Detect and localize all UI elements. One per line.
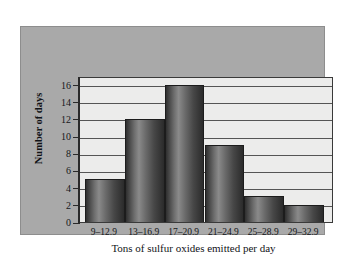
y-tick-mark [73, 223, 79, 224]
bar [85, 179, 125, 222]
y-tick-label: 12 [47, 115, 71, 125]
x-tick-labels: 9–12.913–16.917–20.921–24.925–28.929–32.… [79, 226, 333, 240]
y-tick-mark [73, 188, 79, 189]
y-axis-title: Number of days [33, 74, 44, 184]
bar [165, 85, 205, 222]
bar [244, 196, 284, 222]
bar-series [80, 78, 332, 222]
y-tick-mark [73, 137, 79, 138]
y-tick-labels: 0246810121416 [45, 27, 71, 258]
y-tick-label: 2 [47, 201, 71, 211]
bar [125, 119, 165, 222]
y-tick-mark [73, 85, 79, 86]
y-tick-mark [73, 205, 79, 206]
y-tick-label: 0 [47, 218, 71, 228]
bar [205, 145, 245, 222]
plot-area [79, 77, 333, 223]
y-tick-mark [73, 119, 79, 120]
y-tick-label: 10 [47, 132, 71, 142]
bar [284, 205, 324, 222]
chart-panel: 0246810121416 Number of days 9–12.913–16… [20, 26, 325, 235]
y-tick-label: 14 [47, 98, 71, 108]
y-axis-line [78, 77, 80, 224]
y-tick-label: 16 [47, 81, 71, 91]
y-tick-label: 6 [47, 166, 71, 176]
y-tick-mark [73, 154, 79, 155]
y-tick-mark [73, 171, 79, 172]
y-tick-label: 8 [47, 149, 71, 159]
x-tick-label: 29–32.9 [277, 226, 329, 238]
y-tick-label: 4 [47, 184, 71, 194]
x-axis-title: Tons of sulfur oxides emitted per day [41, 242, 344, 254]
y-tick-mark [73, 102, 79, 103]
